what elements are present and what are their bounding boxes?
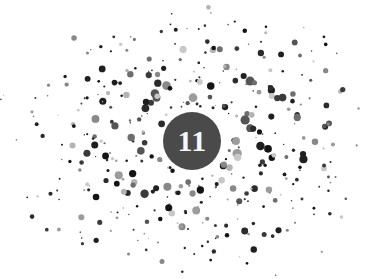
spiral-dot	[115, 159, 117, 161]
spiral-dot	[186, 28, 187, 29]
spiral-dot	[109, 106, 112, 109]
spiral-dot	[211, 174, 213, 176]
spiral-dot	[189, 93, 198, 102]
spiral-dot	[141, 115, 142, 116]
spiral-dot	[201, 177, 204, 180]
spiral-dot	[146, 72, 152, 78]
spiral-dot	[215, 186, 218, 189]
spiral-dot	[85, 182, 89, 186]
spiral-dot	[207, 241, 209, 243]
spiral-dot	[262, 205, 265, 208]
spiral-dot	[326, 122, 329, 125]
spiral-dot	[268, 85, 274, 91]
spiral-dot	[47, 84, 50, 87]
spiral-dot	[247, 200, 249, 202]
spiral-dot	[292, 149, 295, 152]
spiral-dot	[287, 107, 291, 111]
spiral-dot	[118, 81, 122, 85]
spiral-dot	[327, 189, 329, 191]
spiral-dot	[301, 197, 304, 200]
spiral-dot	[292, 207, 294, 209]
spiral-dot	[147, 57, 152, 62]
spiral-dot	[258, 50, 264, 56]
spiral-dot	[309, 97, 311, 99]
spiral-dot	[160, 259, 165, 264]
spiral-dot	[158, 120, 165, 127]
spiral-dot	[242, 28, 247, 33]
spiral-dot	[257, 90, 262, 95]
spiral-dot	[223, 70, 224, 71]
chapter-opener-figure: 11	[0, 0, 385, 279]
spiral-dot	[87, 188, 90, 191]
spiral-dot	[147, 113, 148, 114]
spiral-dot	[81, 242, 84, 245]
spiral-dot	[324, 103, 330, 109]
spiral-dot	[148, 238, 149, 239]
spiral-dot	[142, 140, 148, 146]
spiral-dot	[327, 176, 330, 179]
spiral-dot	[168, 86, 173, 91]
spiral-dot	[59, 178, 61, 180]
spiral-dot	[161, 66, 166, 71]
spiral-dot	[143, 99, 149, 105]
spiral-dot	[197, 62, 200, 65]
spiral-dot	[35, 122, 39, 126]
spiral-dot	[97, 80, 100, 83]
spiral-dot	[197, 79, 203, 85]
spiral-dot	[311, 50, 313, 52]
spiral-dot	[157, 241, 159, 243]
spiral-dot	[232, 137, 240, 145]
spiral-dot	[145, 249, 148, 252]
spiral-dot	[130, 182, 135, 187]
spiral-dot	[160, 30, 163, 33]
spiral-dot	[94, 238, 99, 243]
spiral-dot	[110, 230, 112, 232]
spiral-dot	[324, 43, 328, 47]
spiral-dot	[323, 35, 326, 38]
spiral-dot	[263, 56, 266, 59]
spiral-dot	[312, 60, 314, 62]
spiral-dot	[303, 27, 304, 28]
spiral-dot	[247, 233, 250, 236]
spiral-dot	[167, 196, 169, 198]
spiral-dot	[180, 46, 187, 53]
spiral-dot	[331, 142, 335, 146]
spiral-dot	[174, 28, 178, 32]
spiral-dot	[83, 150, 90, 157]
spiral-dot	[248, 43, 249, 44]
spiral-dot	[30, 110, 33, 113]
spiral-dot	[181, 270, 183, 272]
spiral-dot	[260, 41, 262, 43]
spiral-dot	[234, 46, 239, 51]
spiral-dot	[188, 185, 190, 187]
spiral-dot	[141, 130, 144, 133]
spiral-dot	[298, 166, 302, 170]
spiral-dot	[309, 79, 312, 82]
spiral-dot	[127, 71, 133, 77]
spiral-dot	[313, 213, 315, 215]
spiral-dot	[223, 65, 226, 68]
spiral-dot	[34, 97, 36, 99]
spiral-dot	[225, 233, 229, 237]
spiral-dot	[143, 233, 145, 235]
spiral-dot	[68, 160, 71, 163]
spiral-dot	[184, 247, 186, 249]
spiral-dot	[237, 218, 238, 219]
spiral-dot	[92, 115, 100, 123]
spiral-dot	[83, 189, 86, 192]
spiral-dot	[301, 74, 303, 76]
spiral-dot	[3, 94, 5, 96]
spiral-dot	[137, 240, 139, 242]
spiral-dot	[102, 101, 103, 102]
spiral-dot	[86, 133, 88, 135]
spiral-dot	[335, 176, 337, 178]
spiral-dot	[133, 38, 136, 41]
spiral-dot	[242, 176, 244, 178]
spiral-dot	[103, 85, 105, 87]
spiral-dot	[357, 107, 359, 109]
spiral-dot	[26, 196, 28, 198]
spiral-dot	[80, 103, 82, 105]
spiral-dot	[283, 173, 287, 177]
spiral-dot	[91, 142, 98, 149]
spiral-dot	[85, 76, 91, 82]
